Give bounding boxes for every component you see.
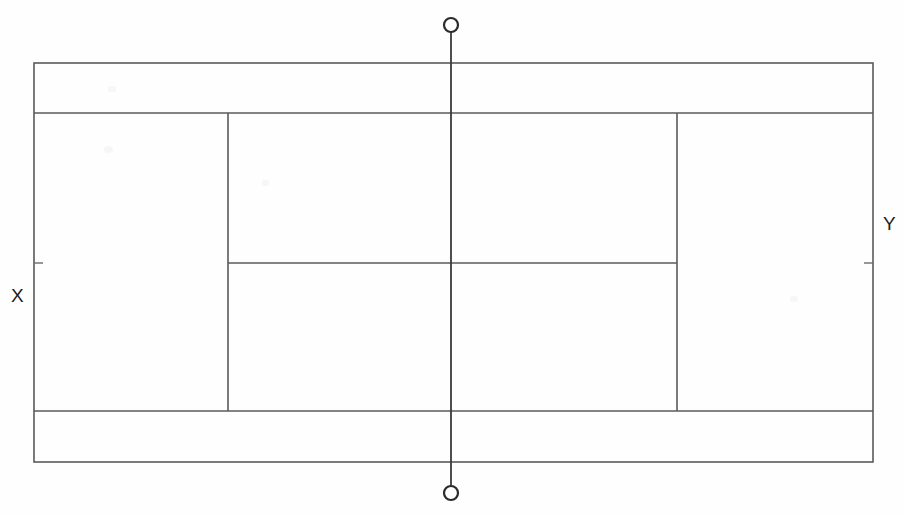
point-label-x: X <box>11 286 24 305</box>
tennis-court-diagram: X Y <box>0 0 904 517</box>
point-label-y: Y <box>883 214 896 233</box>
top-net-post-icon <box>444 18 458 32</box>
court-linework <box>0 0 904 517</box>
bottom-net-post-icon <box>444 486 458 500</box>
